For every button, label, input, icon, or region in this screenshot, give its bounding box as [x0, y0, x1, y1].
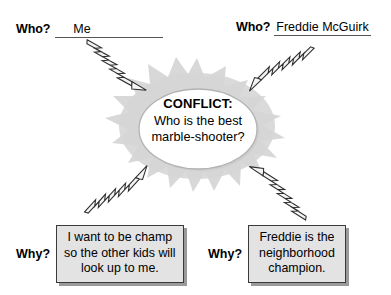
why-right-reason-box: Freddie is the neighborhood champion. — [248, 225, 346, 283]
who-right-value: Freddie McGuirk — [274, 20, 370, 35]
why-right-reason-line-2: neighborhood — [259, 246, 335, 262]
why-left-group: Why? I want to be champ so the other kid… — [16, 225, 184, 283]
conflict-map-diagram: Who? Me Who? Freddie McGuirk CONFLICT: W… — [0, 0, 391, 295]
why-left-reason-line-2: so the other kids will — [64, 246, 176, 262]
who-right-underline: Freddie McGuirk — [274, 18, 370, 36]
bolt-top-right — [245, 38, 316, 96]
why-left-reason-box: I want to be champ so the other kids wil… — [56, 225, 184, 283]
bolt-bottom-left — [83, 160, 152, 221]
why-left-reason-line-1: I want to be champ — [64, 230, 176, 246]
why-right-reason-line-1: Freddie is the — [259, 230, 335, 246]
why-right-label: Why? — [208, 247, 242, 261]
conflict-title: CONFLICT: — [140, 96, 256, 113]
who-right-field: Who? Freddie McGuirk — [236, 18, 371, 36]
bolt-top-left — [80, 38, 151, 96]
conflict-question-line-2: marble-shooter? — [140, 129, 256, 146]
why-left-reason-line-3: look up to me. — [64, 261, 176, 277]
conflict-text-block: CONFLICT: Who is the best marble-shooter… — [140, 96, 256, 146]
why-right-reason-line-3: champion. — [259, 261, 335, 277]
who-left-underline: Me — [55, 20, 163, 38]
why-left-label: Why? — [16, 247, 50, 261]
who-left-label: Who? — [16, 22, 50, 36]
bolt-bottom-right — [245, 161, 314, 222]
who-right-label: Who? — [236, 20, 270, 34]
why-right-group: Why? Freddie is the neighborhood champio… — [208, 225, 346, 283]
conflict-question-line-1: Who is the best — [140, 113, 256, 130]
who-left-field: Who? Me — [16, 20, 163, 38]
who-left-value: Me — [63, 22, 92, 37]
